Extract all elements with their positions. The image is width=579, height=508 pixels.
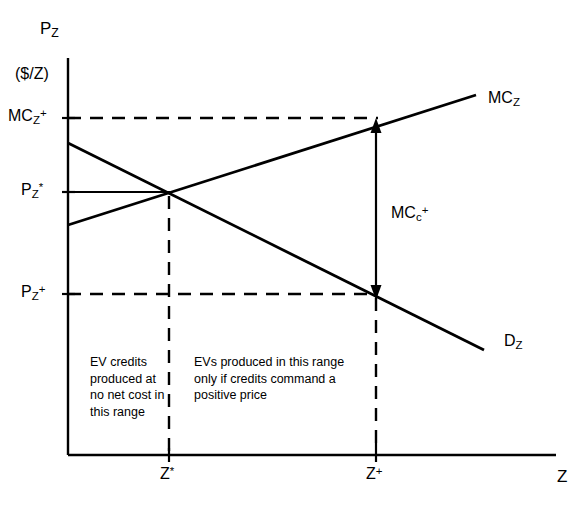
- y-axis-title-sub: Z: [51, 26, 58, 40]
- curve-label-demand-z-base: D: [504, 332, 516, 349]
- economics-supply-demand-figure: PZ ($/Z) MCZ+ PZ* PZ+ Z* Z+ Z MCZ DZ MCc…: [0, 0, 579, 508]
- y-axis-unit-label: ($/Z): [15, 66, 49, 82]
- x-tick-label-z-star-base: Z: [160, 465, 170, 482]
- y-tick-label-p-z-star-sup: *: [39, 181, 43, 193]
- y-tick-label-p-z-plus-base: P: [21, 283, 32, 300]
- y-tick-label-mc-z-plus-sup: +: [40, 107, 47, 119]
- x-tick-label-z-star: Z*: [160, 466, 174, 482]
- plot-canvas: [0, 0, 579, 508]
- x-tick-label-z-plus-sup: +: [376, 465, 383, 477]
- gap-arrow-label-mc-c-plus: MCc+: [391, 205, 428, 223]
- curve-label-demand-z: DZ: [504, 333, 523, 351]
- gap-arrow-label-mc-c-plus-sup: +: [422, 204, 429, 216]
- y-tick-label-mc-z-plus-base: MC: [8, 107, 33, 124]
- curve-label-marginal-cost-z-base: MC: [488, 89, 513, 106]
- x-tick-label-z-plus-base: Z: [366, 465, 376, 482]
- y-tick-label-mc-z-plus: MCZ+: [8, 108, 47, 126]
- annotation-evs-produced-positive-price: EVs produced in this range only if credi…: [194, 354, 364, 404]
- y-tick-label-p-z-plus-sup: +: [39, 283, 46, 295]
- y-tick-label-p-z-plus-sub: Z: [32, 290, 39, 302]
- annotation-ev-credits-no-net-cost: EV credits produced at no net cost in th…: [90, 354, 168, 420]
- y-tick-label-mc-z-plus-sub: Z: [33, 114, 40, 126]
- x-tick-label-z-plus: Z+: [366, 466, 383, 482]
- y-tick-label-p-z-plus: PZ+: [21, 284, 45, 302]
- curve-label-marginal-cost-z: MCZ: [488, 90, 520, 108]
- x-tick-label-z-star-sup: *: [170, 465, 174, 477]
- y-tick-label-p-z-star-sub: Z: [32, 188, 39, 200]
- x-axis-title: Z: [557, 468, 567, 485]
- curve-label-marginal-cost-z-sub: Z: [513, 96, 520, 108]
- mc-c-plus-gap-arrow: [371, 118, 382, 300]
- y-tick-label-p-z-star: PZ*: [21, 182, 43, 200]
- y-tick-label-p-z-star-base: P: [21, 181, 32, 198]
- gap-arrow-label-mc-c-plus-base: MC: [391, 204, 416, 221]
- y-axis-title: PZ: [40, 20, 59, 39]
- demand-z-curve: [68, 143, 484, 350]
- y-axis-title-base: P: [40, 19, 51, 38]
- curve-label-demand-z-sub: Z: [516, 339, 523, 351]
